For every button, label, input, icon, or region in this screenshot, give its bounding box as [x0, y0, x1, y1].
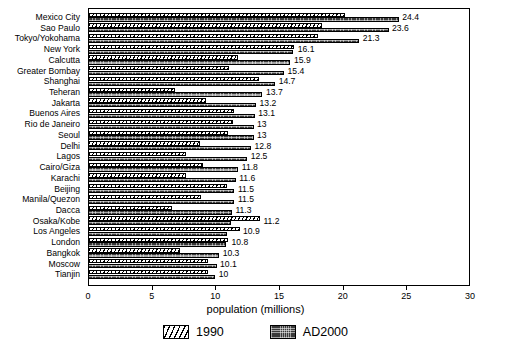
x-axis-tick-label: 5: [149, 291, 154, 301]
category-label: Lagos: [0, 151, 84, 162]
category-label: Beijing: [0, 184, 84, 195]
x-axis-tick-label: 25: [401, 291, 411, 301]
value-label: 11.8: [238, 162, 258, 173]
value-labels: 24.423.621.316.115.915.414.713.713.213.1…: [88, 12, 511, 280]
value-label: 10.1: [217, 259, 237, 270]
legend-swatch-ad2000-icon: [270, 325, 296, 339]
x-axis-tick-label: 10: [210, 291, 220, 301]
value-label-row: 15.9: [88, 55, 511, 66]
x-axis-tick-label: 20: [338, 291, 348, 301]
population-bar-chart: Mexico CitySao PauloTokyo/YokohamaNew Yo…: [0, 0, 511, 351]
x-axis-tick-label: 15: [274, 291, 284, 301]
legend-label-1990: 1990: [196, 325, 224, 339]
value-label: 11.2: [260, 216, 280, 227]
value-label-row: 13.1: [88, 108, 511, 119]
category-label: London: [0, 237, 84, 248]
value-label: 11.3: [232, 205, 252, 216]
category-label: New York: [0, 44, 84, 55]
value-label-row: 10.1: [88, 259, 511, 270]
category-label: Seoul: [0, 130, 84, 141]
value-label: 23.6: [389, 23, 409, 34]
x-axis-tick: [343, 286, 344, 290]
category-label: Shanghai: [0, 76, 84, 87]
value-label: 10.3: [219, 248, 239, 259]
value-label: 11.6: [236, 173, 256, 184]
value-label: 12.8: [251, 141, 271, 152]
legend-item-ad2000: AD2000: [270, 325, 348, 339]
value-label-row: 11.3: [88, 205, 511, 216]
category-label: Manila/Quezon: [0, 194, 84, 205]
legend-item-1990: 1990: [163, 325, 224, 339]
category-label: Rio de Janeiro: [0, 119, 84, 130]
legend-label-ad2000: AD2000: [303, 325, 348, 339]
value-label-row: 11.5: [88, 184, 511, 195]
value-label: 15.9: [290, 55, 310, 66]
value-label-row: 11.8: [88, 162, 511, 173]
value-label-row: 11.2: [88, 216, 511, 227]
value-label: 12.5: [247, 151, 267, 162]
category-label: Greater Bombay: [0, 66, 84, 77]
category-label: Tokyo/Yokohama: [0, 33, 84, 44]
category-label: Karachi: [0, 173, 84, 184]
category-label: Bangkok: [0, 248, 84, 259]
x-axis-title: population (millions): [0, 303, 511, 315]
value-label: 15.4: [284, 66, 304, 77]
category-label: Moscow: [0, 259, 84, 270]
x-axis-tick: [406, 286, 407, 290]
value-label-row: 12.8: [88, 141, 511, 152]
value-label: 10.8: [228, 237, 248, 248]
value-label-row: 24.4: [88, 12, 511, 23]
category-label: Los Angeles: [0, 226, 84, 237]
value-label: 21.3: [359, 33, 379, 44]
value-label-row: 13.7: [88, 87, 511, 98]
value-label-row: 23.6: [88, 23, 511, 34]
value-label: 13: [254, 130, 267, 141]
category-label: Osaka/Kobe: [0, 216, 84, 227]
value-label: 13.7: [262, 87, 282, 98]
value-label-row: 16.1: [88, 44, 511, 55]
x-axis-tick: [215, 286, 216, 290]
value-label-row: 14.7: [88, 76, 511, 87]
x-axis-tick-label: 0: [85, 291, 90, 301]
value-label: 13: [254, 119, 267, 130]
category-label: Delhi: [0, 141, 84, 152]
value-label-row: 10.8: [88, 237, 511, 248]
category-label: Dacca: [0, 205, 84, 216]
value-label-row: 10: [88, 269, 511, 280]
value-label-row: 10.3: [88, 248, 511, 259]
value-label-row: 15.4: [88, 66, 511, 77]
value-label-row: 13: [88, 130, 511, 141]
value-label: 11.5: [234, 194, 254, 205]
x-axis-tick: [279, 286, 280, 290]
category-label: Mexico City: [0, 12, 84, 23]
value-label: 13.1: [255, 108, 275, 119]
value-label-row: 21.3: [88, 33, 511, 44]
value-label: 10: [215, 269, 228, 280]
value-label: 16.1: [294, 44, 314, 55]
value-label-row: 11.6: [88, 173, 511, 184]
chart-legend: 1990 AD2000: [0, 325, 511, 339]
value-label-row: 12.5: [88, 151, 511, 162]
value-label: 10.9: [240, 226, 260, 237]
category-axis-labels: Mexico CitySao PauloTokyo/YokohamaNew Yo…: [0, 12, 84, 280]
category-label: Teheran: [0, 87, 84, 98]
value-label-row: 13: [88, 119, 511, 130]
legend-swatch-1990-icon: [163, 325, 189, 339]
category-label: Calcutta: [0, 55, 84, 66]
category-label: Tianjin: [0, 269, 84, 280]
value-label: 11.5: [234, 184, 254, 195]
category-label: Sao Paulo: [0, 23, 84, 34]
x-axis-tick: [152, 286, 153, 290]
x-axis-tick-label: 30: [465, 291, 475, 301]
value-label: 24.4: [399, 12, 419, 23]
value-label-row: 11.5: [88, 194, 511, 205]
category-label: Jakarta: [0, 98, 84, 109]
category-label: Buenos Aires: [0, 108, 84, 119]
category-label: Cairo/Giza: [0, 162, 84, 173]
value-label-row: 10.9: [88, 226, 511, 237]
value-label: 13.2: [256, 98, 276, 109]
x-axis: 051015202530: [88, 286, 470, 287]
value-label-row: 13.2: [88, 98, 511, 109]
value-label: 14.7: [275, 76, 295, 87]
